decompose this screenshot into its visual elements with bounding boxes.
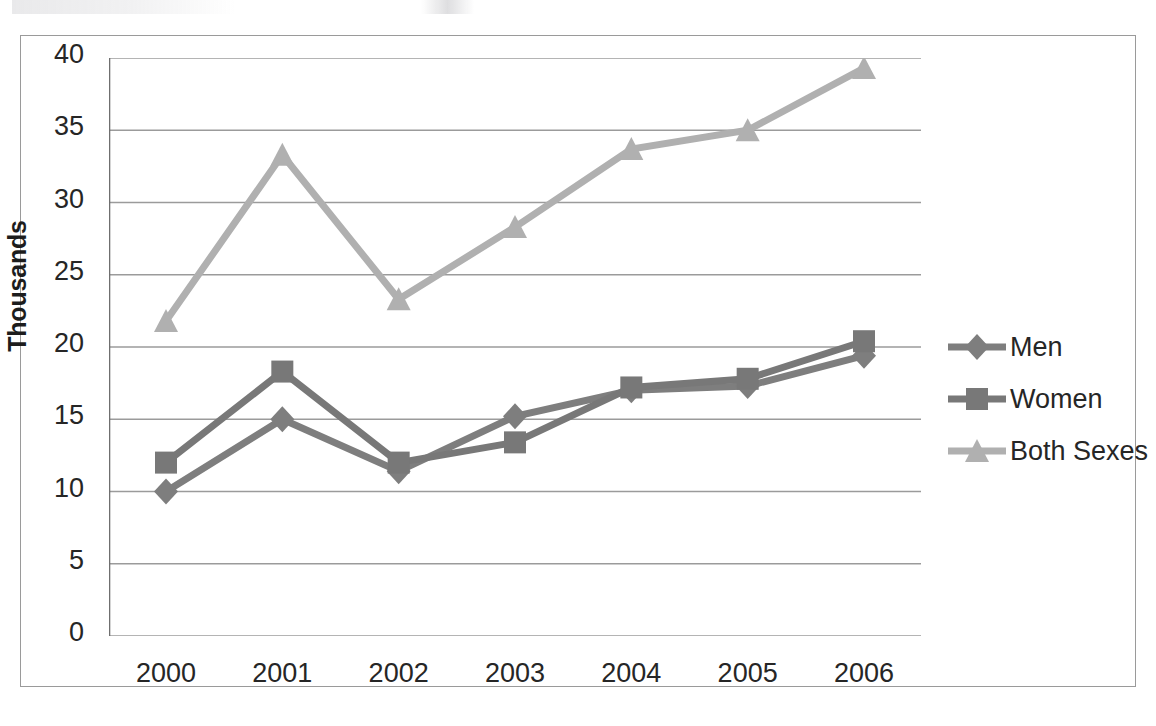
legend-item-men[interactable]: Men — [946, 321, 1156, 373]
data-point-marker-square — [504, 431, 526, 453]
x-tick-label: 2003 — [455, 658, 575, 689]
y-tick-label: 30 — [24, 184, 84, 215]
scan-artifact-top — [12, 0, 672, 14]
x-tick-label: 2004 — [571, 658, 691, 689]
data-point-marker-square — [271, 361, 293, 383]
data-point-marker-diamond — [503, 403, 527, 429]
x-tick-label: 2002 — [339, 658, 459, 689]
y-tick-label: 20 — [24, 328, 84, 359]
chart-frame: Thousands 0510152025303540 2000200120022… — [20, 35, 1136, 687]
legend-swatch-square-icon — [946, 385, 1008, 413]
y-tick-label: 25 — [24, 256, 84, 287]
data-point-marker-square — [966, 388, 988, 410]
line-chart-svg — [109, 58, 921, 636]
plot-area — [109, 58, 921, 636]
y-tick-label: 10 — [24, 473, 84, 504]
legend-label: Women — [1010, 384, 1103, 415]
legend-swatch-triangle-icon — [946, 437, 1008, 465]
legend-label: Men — [1010, 332, 1063, 363]
y-tick-label: 15 — [24, 400, 84, 431]
y-tick-label: 40 — [24, 39, 84, 70]
data-point-marker-square — [737, 368, 759, 390]
data-point-marker-square — [388, 452, 410, 474]
y-tick-label: 35 — [24, 111, 84, 142]
x-tick-label: 2000 — [106, 658, 226, 689]
legend-item-both-sexes[interactable]: Both Sexes — [946, 425, 1156, 477]
series-line-both-sexes — [166, 68, 864, 321]
data-point-marker-triangle — [852, 58, 876, 79]
data-point-marker-square — [155, 452, 177, 474]
chart-legend: MenWomenBoth Sexes — [946, 321, 1156, 477]
x-tick-label: 2005 — [688, 658, 808, 689]
data-point-marker-diamond — [965, 334, 989, 360]
x-tick-label: 2001 — [222, 658, 342, 689]
y-tick-label: 5 — [24, 545, 84, 576]
legend-swatch-diamond-icon — [946, 333, 1008, 361]
data-point-marker-square — [620, 376, 642, 398]
legend-label: Both Sexes — [1010, 436, 1148, 467]
y-tick-label: 0 — [24, 617, 84, 648]
x-tick-label: 2006 — [804, 658, 924, 689]
data-point-marker-square — [853, 330, 875, 352]
legend-item-women[interactable]: Women — [946, 373, 1156, 425]
data-point-marker-triangle — [270, 143, 294, 166]
